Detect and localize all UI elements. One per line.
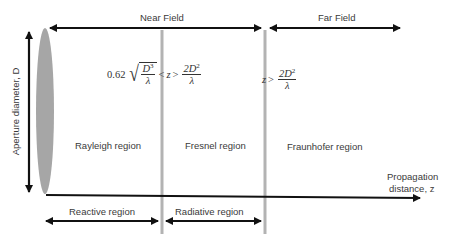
rayleigh-region-label: Rayleigh region [75, 140, 141, 151]
radiative-region-label: Radiative region [175, 206, 244, 217]
far-field-label: Far Field [318, 12, 355, 23]
fresnel-region-label: Fresnel region [185, 140, 246, 151]
aperture-diameter-label: Aperture diameter, D [10, 62, 21, 162]
aperture-ellipse [36, 28, 54, 194]
reactive-region-label: Reactive region [69, 206, 135, 217]
near-field-label: Near Field [140, 12, 184, 23]
fraunhofer-region-label: Fraunhofer region [287, 141, 363, 152]
propagation-label-line1: Propagation [387, 171, 438, 182]
fresnel-condition-formula: 0.62 √ D3 λ < z > 2D2 λ [107, 62, 203, 86]
propagation-label-line2: distance, z [389, 183, 434, 194]
sqrt-symbol: √ D3 λ [128, 62, 156, 86]
fraunhofer-condition-formula: z > 2D2 λ [262, 68, 298, 91]
